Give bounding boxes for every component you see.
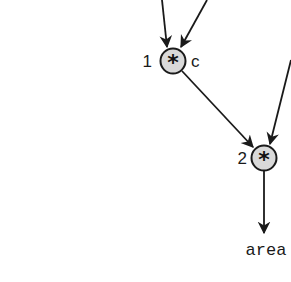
edge-input-b-to-node-1 xyxy=(181,0,207,47)
node-1: * 1 c xyxy=(143,49,200,76)
edge-input-c-to-node-2 xyxy=(270,60,291,144)
edge-node-1-to-node-2 xyxy=(182,71,253,147)
multiply-operator-icon: * xyxy=(167,50,179,75)
edge-input-a-to-node-1 xyxy=(162,0,167,47)
node-2-index-label: 2 xyxy=(238,149,247,168)
output-label-area: area xyxy=(246,241,287,260)
node-1-index-label: 1 xyxy=(143,52,152,71)
node-2: * 2 xyxy=(238,146,277,173)
node-1-side-label: c xyxy=(191,52,200,71)
multiply-operator-icon: * xyxy=(258,147,270,172)
computation-graph: * 1 c * 2 area xyxy=(0,0,291,282)
